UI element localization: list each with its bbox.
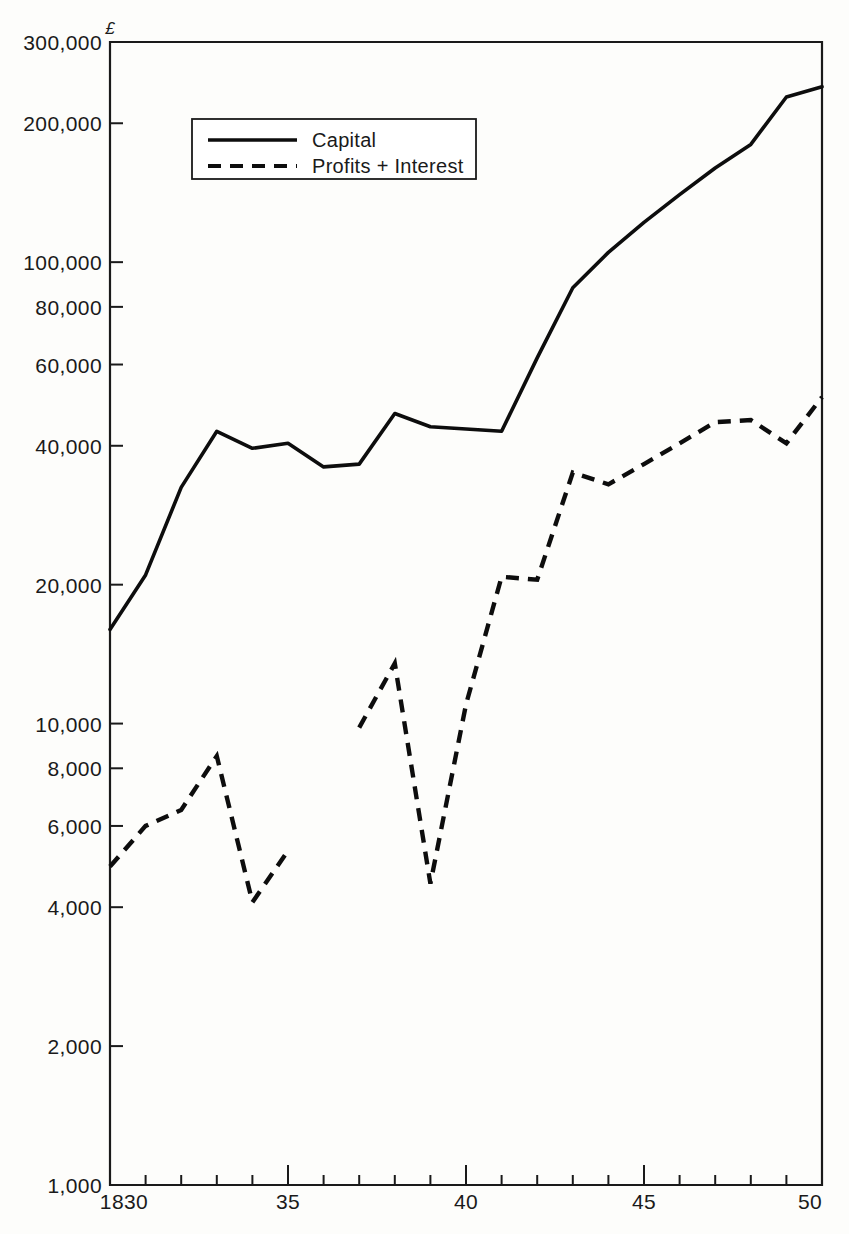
legend-label-capital: Capital — [312, 129, 376, 151]
y-tick-label: 100,000 — [23, 251, 102, 274]
log-line-chart: 1,0002,0004,0006,0008,00010,00020,00040,… — [0, 0, 849, 1234]
y-tick-label: 40,000 — [35, 435, 102, 458]
y-tick-label: 200,000 — [23, 112, 102, 135]
y-tick-label: 8,000 — [47, 757, 102, 780]
x-tick-label: 45 — [632, 1190, 656, 1213]
currency-symbol-label: £ — [104, 19, 115, 38]
x-tick-label: 35 — [276, 1190, 300, 1213]
series-line-profits-interest — [110, 397, 822, 902]
x-axis-labels: 183035404550 — [100, 1190, 822, 1213]
y-tick-label: 6,000 — [47, 815, 102, 838]
x-tick-label: 50 — [798, 1190, 822, 1213]
y-tick-label: 10,000 — [35, 713, 102, 736]
x-tick-label: 1830 — [100, 1190, 148, 1213]
y-tick-label: 4,000 — [47, 896, 102, 919]
y-tick-label: 80,000 — [35, 296, 102, 319]
y-tick-label: 2,000 — [47, 1035, 102, 1058]
y-axis-labels: 1,0002,0004,0006,0008,00010,00020,00040,… — [23, 31, 102, 1197]
chart-legend: Capital Profits + Interest — [192, 119, 476, 179]
chart-figure: 1,0002,0004,0006,0008,00010,00020,00040,… — [0, 0, 849, 1234]
chart-axes — [110, 42, 822, 1185]
x-tick-label: 40 — [454, 1190, 478, 1213]
chart-series-group — [110, 87, 822, 903]
y-tick-label: 300,000 — [23, 31, 102, 54]
y-tick-label: 60,000 — [35, 354, 102, 377]
x-axis-ticks — [146, 1165, 787, 1185]
y-tick-label: 1,000 — [47, 1174, 102, 1197]
axis-frame — [110, 42, 822, 1185]
y-tick-label: 20,000 — [35, 574, 102, 597]
legend-label-profits-interest: Profits + Interest — [312, 155, 464, 177]
